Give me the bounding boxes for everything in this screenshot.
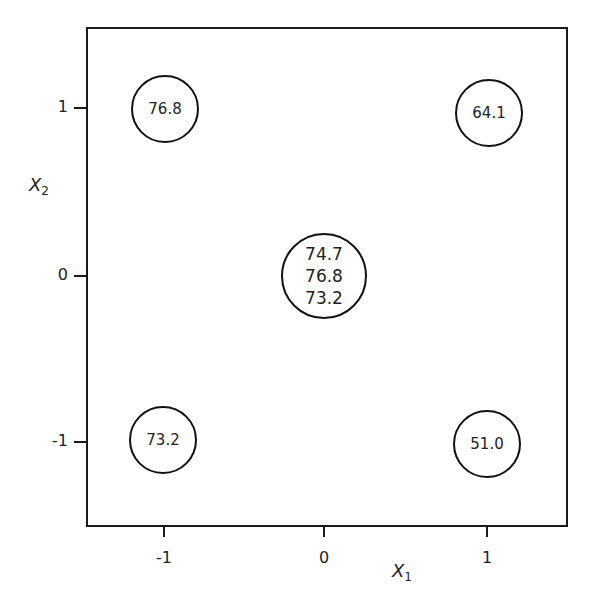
response-value: 51.0	[470, 434, 503, 454]
x-tick-0	[323, 527, 325, 537]
response-value: 73.2	[305, 287, 343, 309]
x-tick-neg1	[163, 527, 165, 537]
x-tick-label: 0	[304, 548, 344, 567]
y-tick-label: 1	[30, 97, 68, 116]
response-value: 64.1	[472, 103, 505, 123]
response-value: 73.2	[146, 430, 179, 450]
x-tick-label: -1	[144, 548, 184, 567]
y-tick-label: -1	[30, 431, 68, 450]
design-point-1-1: 64.1	[455, 79, 523, 147]
y-tick-neg1	[74, 441, 86, 443]
y-tick-label: 0	[30, 265, 68, 284]
response-value: 76.8	[305, 265, 343, 287]
y-axis-label: X2	[29, 174, 49, 198]
y-tick-0	[74, 275, 86, 277]
design-point-neg1-neg1: 73.2	[129, 406, 197, 474]
response-value: 76.8	[148, 99, 181, 119]
x-tick-label: 1	[467, 548, 507, 567]
y-tick-1	[74, 107, 86, 109]
design-point-1-neg1: 51.0	[453, 410, 521, 478]
x-axis-label: X1	[392, 560, 412, 584]
design-point-neg1-1: 76.8	[131, 75, 199, 143]
design-point-center: 74.7 76.8 73.2	[281, 233, 367, 319]
response-value: 74.7	[305, 243, 343, 265]
x-tick-1	[486, 527, 488, 537]
